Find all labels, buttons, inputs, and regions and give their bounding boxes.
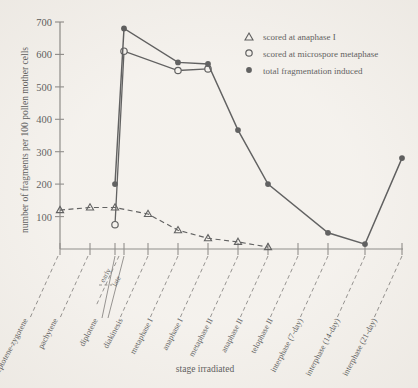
category-label: interphase (7-day): [269, 316, 305, 373]
series-markers-open-circles: [112, 48, 211, 228]
diplotene-fork: [99, 256, 124, 318]
category-leader-lines: [30, 256, 402, 318]
category-label: diplotene: [78, 316, 100, 347]
category-label: anaphase I: [160, 316, 184, 351]
series-line-open-circles: [115, 51, 208, 225]
legend-item-total-fragmentation: total fragmentation induced: [246, 66, 363, 76]
branch-label-late: late: [110, 274, 123, 288]
figure-canvas: 700 600 500 400 300 200 100 number of fr…: [0, 0, 418, 388]
open-circle-icon: [246, 50, 252, 56]
category-label: metaphase II: [187, 316, 215, 358]
y-tick-label: 600: [36, 49, 52, 60]
y-tick-label: 700: [36, 17, 52, 28]
filled-circle-icon: [246, 67, 252, 73]
legend-item-microspore-metaphase: scored at microspore metaphase: [246, 49, 378, 59]
series-scored-at-anaphase-I: [56, 204, 271, 250]
open-triangle-icon: [245, 33, 253, 40]
legend-label: total fragmentation induced: [263, 66, 363, 76]
category-label: metaphase I: [128, 316, 155, 355]
category-label: leptotene-zygotene: [0, 316, 30, 376]
legend-item-anaphase-I: scored at anaphase I: [245, 32, 336, 42]
y-tick-labels: 700 600 500 400 300 200 100: [36, 17, 52, 223]
category-label: interphase (21-day): [341, 316, 379, 377]
legend-label: scored at microspore metaphase: [263, 49, 378, 59]
category-label: anaphase II: [219, 316, 245, 354]
series-line-filled-circles: [115, 29, 402, 245]
category-label: pachytene: [36, 316, 60, 350]
category-label: diakinesis: [101, 317, 124, 350]
chart-svg: 700 600 500 400 300 200 100 number of fr…: [0, 0, 418, 388]
series-scored-at-microspore-metaphase: [112, 48, 211, 228]
y-axis-title: number of fragments per 100 pollen mothe…: [20, 47, 30, 233]
legend: scored at anaphase I scored at microspor…: [245, 32, 378, 76]
y-tick-label: 200: [36, 179, 52, 190]
y-tick-label: 500: [36, 82, 52, 93]
x-axis-title: stage irradiated: [176, 364, 235, 374]
legend-label: scored at anaphase I: [263, 32, 336, 42]
series-markers-triangles: [56, 204, 271, 250]
category-label: interphase (14-day): [304, 316, 342, 377]
category-label: telophase II: [249, 316, 275, 354]
y-tick-label: 100: [36, 212, 52, 223]
y-tick-label: 400: [36, 114, 52, 125]
y-tick-label: 300: [36, 147, 52, 158]
